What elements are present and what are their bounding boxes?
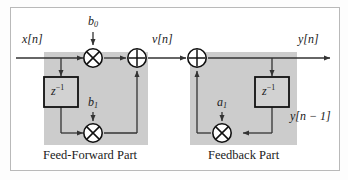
feedback-adder	[188, 49, 206, 67]
a1-multiplier	[213, 124, 231, 142]
feedback-delay-label: z−1	[262, 85, 275, 97]
b1-subscript: 1	[94, 101, 98, 110]
feedforward-adder	[128, 49, 146, 67]
output-signal-label: y[n]	[298, 33, 319, 45]
fb-delay-exponent: −1	[267, 83, 275, 92]
delayed-output-label: y[n − 1]	[290, 110, 331, 122]
fb-delay-base: z	[262, 84, 267, 98]
ff-delay-base: z	[51, 84, 56, 98]
input-signal-label: x[n]	[22, 33, 43, 45]
intermediate-signal-label: v[n]	[152, 33, 173, 45]
b1-coefficient-label: b1	[88, 96, 98, 108]
b0-subscript: 0	[94, 20, 98, 29]
feed-forward-caption: Feed-Forward Part	[43, 149, 137, 162]
b0-multiplier	[84, 49, 102, 67]
ff-delay-exponent: −1	[56, 83, 64, 92]
feedforward-delay-label: z−1	[51, 85, 64, 97]
b0-coefficient-label: b0	[88, 15, 98, 27]
figure-container: x[n] v[n] y[n] y[n − 1] b0 b1 a1 z−1 z−1…	[0, 0, 348, 180]
feedback-caption: Feedback Part	[208, 149, 279, 162]
b1-multiplier	[84, 124, 102, 142]
a1-subscript: 1	[223, 101, 227, 110]
a1-coefficient-label: a1	[217, 96, 227, 108]
